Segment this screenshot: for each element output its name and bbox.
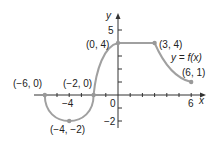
y-axis-label: y	[105, 10, 112, 21]
function-label: y = f(x)	[170, 52, 202, 63]
point-label-neg2-0: (−2, 0)	[63, 78, 92, 89]
x-tick-neg4: −4	[62, 98, 74, 109]
point-6-1	[189, 80, 193, 84]
y-axis-arrow-icon	[116, 13, 121, 19]
point-label-0-4: (0, 4)	[86, 39, 109, 50]
graph-svg: y x 5 −2 −4 0 6 (−6, 0) (−4, −2) (−2, 0)…	[0, 0, 212, 143]
x-tick-6: 6	[188, 98, 194, 109]
function-graph: y x 5 −2 −4 0 6 (−6, 0) (−4, −2) (−2, 0)…	[0, 0, 212, 143]
point-3-4	[152, 41, 156, 45]
point-label-3-4: (3, 4)	[159, 39, 182, 50]
point-neg2-0	[91, 93, 95, 97]
y-tick-neg2: −2	[104, 116, 116, 127]
point-neg4-neg2	[67, 119, 71, 123]
x-axis-label: x	[198, 95, 205, 106]
point-neg6-0	[43, 93, 47, 97]
point-label-neg4-neg2: (−4, −2)	[50, 124, 85, 135]
y-tick-5: 5	[108, 25, 114, 36]
point-label-6-1: (6, 1)	[182, 67, 205, 78]
x-tick-0: 0	[110, 98, 116, 109]
point-label-neg6-0: (−6, 0)	[13, 78, 42, 89]
point-0-4	[116, 41, 120, 45]
